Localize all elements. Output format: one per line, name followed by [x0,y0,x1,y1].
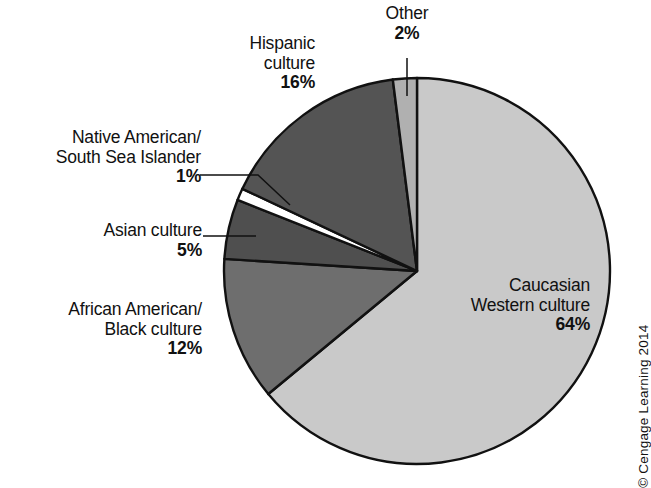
slice-label-hispanic-line1: Hispanic [185,34,315,54]
slice-value-other: 2% [355,24,459,44]
slice-label-hispanic-line2: culture [185,54,315,74]
slice-label-african: African American/ Black culture 12% [30,300,202,359]
copyright-notice: © Cengage Learning 2014 [636,325,651,488]
slice-label-hispanic: Hispanic culture 16% [185,34,315,93]
slice-label-caucasian: Caucasian Western culture 64% [438,276,590,335]
slice-label-other: Other 2% [355,4,459,43]
slice-label-caucasian-line1: Caucasian [438,276,590,296]
slice-label-other-line1: Other [355,4,459,24]
slice-label-native-line2: South Sea Islander [6,148,201,168]
slice-value-african: 12% [30,339,202,359]
slice-label-native-line1: Native American/ [6,128,201,148]
slice-label-african-line2: Black culture [30,320,202,340]
slice-value-caucasian: 64% [438,315,590,335]
slice-label-caucasian-line2: Western culture [438,296,590,316]
slice-value-hispanic: 16% [185,73,315,93]
slice-value-native: 1% [6,167,201,187]
slice-value-asian: 5% [36,241,202,261]
slice-label-asian-line1: Asian culture [36,221,202,241]
slice-label-native: Native American/ South Sea Islander 1% [6,128,201,187]
slice-label-african-line1: African American/ [30,300,202,320]
slice-label-asian: Asian culture 5% [36,221,202,260]
pie-slices [224,78,610,464]
